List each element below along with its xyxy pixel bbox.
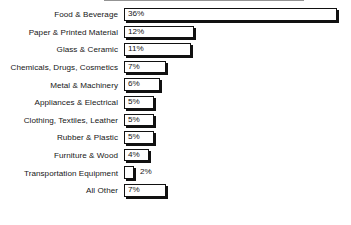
bar xyxy=(124,43,191,56)
bar-category-label: Chemicals, Drugs, Cosmetics xyxy=(0,63,124,72)
bar xyxy=(124,166,134,179)
bar-row: Chemicals, Drugs, Cosmetics7% xyxy=(0,59,351,77)
bar-track: 7% xyxy=(124,59,351,77)
bar-category-label: Appliances & Electrical xyxy=(0,98,124,107)
bar-category-label: Metal & Machinery xyxy=(0,81,124,90)
bar-track: 2% xyxy=(124,164,351,182)
bar-row: Rubber & Plastic5% xyxy=(0,129,351,147)
bar-category-label: Glass & Ceramic xyxy=(0,45,124,54)
bar-row: Transportation Equipment2% xyxy=(0,164,351,182)
bar-row: Food & Beverage36% xyxy=(0,6,351,24)
bar-category-label: Furniture & Wood xyxy=(0,151,124,160)
bar-track: 12% xyxy=(124,24,351,42)
bar xyxy=(124,61,166,74)
bar-track: 11% xyxy=(124,41,351,59)
bar-row: Metal & Machinery6% xyxy=(0,76,351,94)
bar-row: Furniture & Wood4% xyxy=(0,147,351,165)
bar xyxy=(124,96,154,109)
bar-category-label: All Other xyxy=(0,186,124,195)
bar-track: 36% xyxy=(124,6,351,24)
bar-track: 5% xyxy=(124,112,351,130)
bar xyxy=(124,149,149,162)
chart-plot-area: Food & Beverage36%Paper & Printed Materi… xyxy=(0,6,351,200)
bar-row: Glass & Ceramic11% xyxy=(0,41,351,59)
bar-track: 4% xyxy=(124,147,351,165)
top-cropped-rule xyxy=(104,0,304,1)
bar-category-label: Rubber & Plastic xyxy=(0,133,124,142)
bar-row: All Other7% xyxy=(0,182,351,200)
bar-value-label: 2% xyxy=(140,166,152,179)
bar-track: 6% xyxy=(124,76,351,94)
bar-row: Clothing, Textiles, Leather5% xyxy=(0,112,351,130)
bar-category-label: Paper & Printed Material xyxy=(0,28,124,37)
bar-row: Paper & Printed Material12% xyxy=(0,24,351,42)
bar-track: 7% xyxy=(124,182,351,200)
bar-chart: Food & Beverage36%Paper & Printed Materi… xyxy=(0,0,351,225)
bar xyxy=(124,8,337,21)
bar-track: 5% xyxy=(124,94,351,112)
bar xyxy=(124,114,154,127)
bar-row: Appliances & Electrical5% xyxy=(0,94,351,112)
bar xyxy=(124,184,166,197)
bar-track: 5% xyxy=(124,129,351,147)
bar-category-label: Food & Beverage xyxy=(0,10,124,19)
bar xyxy=(124,26,194,39)
bar-category-label: Clothing, Textiles, Leather xyxy=(0,116,124,125)
bar xyxy=(124,131,154,144)
bar-category-label: Transportation Equipment xyxy=(0,169,124,178)
bar xyxy=(124,78,160,91)
